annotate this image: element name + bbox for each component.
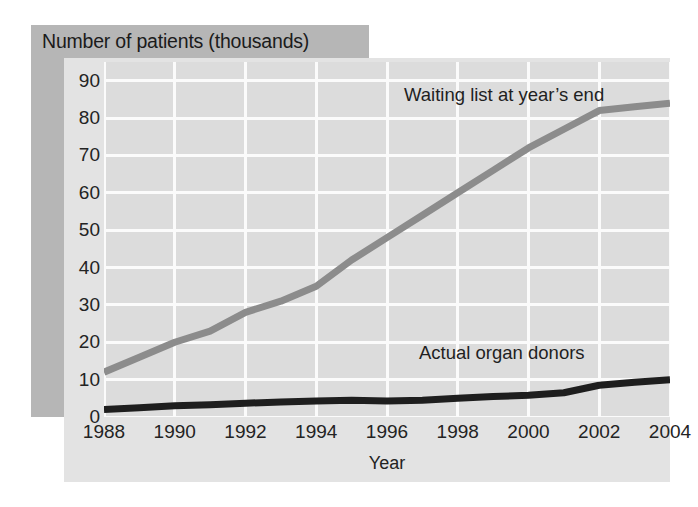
y-axis-tick-label: 80	[56, 107, 100, 129]
x-axis-tick-label: 1990	[154, 421, 196, 443]
x-axis-tick-label: 1998	[437, 421, 479, 443]
actual-donors-line	[104, 380, 670, 410]
page-title: Number of patients (thousands)	[42, 30, 309, 53]
x-axis-tick-label: 2004	[649, 421, 691, 443]
series-lines	[104, 62, 670, 417]
plot-area	[104, 62, 670, 417]
y-axis-tick-label: 20	[56, 331, 100, 353]
y-axis-tick-label: 90	[56, 70, 100, 92]
x-axis-title: Year	[104, 453, 670, 474]
x-axis-tick-label: 1994	[295, 421, 337, 443]
chart-figure: Number of patients (thousands) 010203040…	[0, 0, 698, 507]
y-axis-tick-label: 30	[56, 294, 100, 316]
x-axis-tick-labels: 198819901992199419961998200020022004	[104, 421, 670, 451]
y-axis-tick-label: 70	[56, 144, 100, 166]
y-axis-tick-label: 50	[56, 219, 100, 241]
y-axis-tick-labels: 0102030405060708090	[56, 62, 100, 417]
x-axis-tick-label: 1992	[224, 421, 266, 443]
x-axis-tick-label: 1996	[366, 421, 408, 443]
series-label-actual-donors: Actual organ donors	[419, 342, 585, 364]
x-axis-tick-label: 2000	[507, 421, 549, 443]
waiting-list-line	[104, 103, 670, 372]
y-axis-tick-label: 10	[56, 369, 100, 391]
y-axis-tick-label: 40	[56, 257, 100, 279]
x-axis-tick-label: 2002	[578, 421, 620, 443]
y-axis-tick-label: 60	[56, 182, 100, 204]
x-axis-tick-label: 1988	[83, 421, 125, 443]
series-label-waiting-list: Waiting list at year’s end	[404, 84, 604, 106]
chart-title-banner: Number of patients (thousands)	[31, 25, 369, 58]
